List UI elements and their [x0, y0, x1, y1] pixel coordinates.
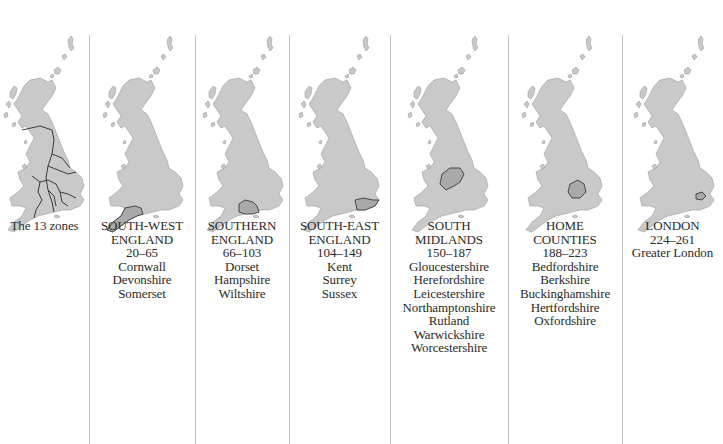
- zone-range: 104–149: [289, 246, 390, 260]
- zone-title-line: SOUTH-WEST: [89, 219, 195, 233]
- uk-map-south-east: [291, 34, 387, 234]
- county-name: Warwickshire: [390, 328, 508, 342]
- zone-title-line: SOUTH: [390, 219, 508, 233]
- panel-home-counties: HOME COUNTIES 188–223 Bedfordshire Berks…: [508, 0, 622, 444]
- county-name: Berkshire: [508, 273, 622, 287]
- caption: SOUTH-EAST ENGLAND 104–149 Kent Surrey S…: [289, 219, 390, 301]
- county-name: Sussex: [289, 287, 390, 301]
- panel-south-west-england: SOUTH-WEST ENGLAND 20–65 Cornwall Devons…: [89, 0, 195, 444]
- caption: SOUTH MIDLANDS 150–187 Gloucestershire H…: [390, 219, 508, 355]
- county-name: Surrey: [289, 273, 390, 287]
- county-name: Northamptonshire: [390, 301, 508, 315]
- zone-title: The 13 zones: [0, 219, 89, 233]
- zone-range: 66–103: [195, 246, 289, 260]
- county-name: Greater London: [622, 246, 723, 260]
- county-name: Devonshire: [89, 273, 195, 287]
- county-name: Worcestershire: [390, 341, 508, 355]
- county-name: Buckinghamshire: [508, 287, 622, 301]
- zone-title-line: ENGLAND: [89, 233, 195, 247]
- caption: The 13 zones: [0, 219, 89, 233]
- county-name: Wiltshire: [195, 287, 289, 301]
- zone-title-line: LONDON: [622, 219, 723, 233]
- zone-title-line: HOME: [508, 219, 622, 233]
- county-name: Hertfordshire: [508, 301, 622, 315]
- uk-map-all-zones: [0, 34, 92, 234]
- zone-range: 150–187: [390, 246, 508, 260]
- zone-range: 188–223: [508, 246, 622, 260]
- county-name: Oxfordshire: [508, 314, 622, 328]
- county-name: Cornwall: [89, 260, 195, 274]
- zone-title-line: COUNTIES: [508, 233, 622, 247]
- uk-map-south-midlands: [400, 34, 496, 234]
- panel-13-zones: The 13 zones: [0, 0, 89, 444]
- county-name: Dorset: [195, 260, 289, 274]
- caption: SOUTHERN ENGLAND 66–103 Dorset Hampshire…: [195, 219, 289, 301]
- caption: HOME COUNTIES 188–223 Bedfordshire Berks…: [508, 219, 622, 328]
- county-name: Bedfordshire: [508, 260, 622, 274]
- county-name: Leicestershire: [390, 287, 508, 301]
- zone-range: 20–65: [89, 246, 195, 260]
- uk-map-home-counties: [514, 34, 610, 234]
- zone-title-line: MIDLANDS: [390, 233, 508, 247]
- panel-south-east-england: SOUTH-EAST ENGLAND 104–149 Kent Surrey S…: [289, 0, 390, 444]
- uk-map-london: [626, 34, 722, 234]
- zone-range: 224–261: [622, 233, 723, 247]
- county-name: Herefordshire: [390, 273, 508, 287]
- county-name: Kent: [289, 260, 390, 274]
- panel-southern-england: SOUTHERN ENGLAND 66–103 Dorset Hampshire…: [195, 0, 289, 444]
- panel-london: LONDON 224–261 Greater London: [622, 0, 723, 444]
- panel-south-midlands: SOUTH MIDLANDS 150–187 Gloucestershire H…: [390, 0, 508, 444]
- caption: SOUTH-WEST ENGLAND 20–65 Cornwall Devons…: [89, 219, 195, 301]
- zone-title-line: SOUTHERN: [195, 219, 289, 233]
- zone-title-line: SOUTH-EAST: [289, 219, 390, 233]
- caption: LONDON 224–261 Greater London: [622, 219, 723, 260]
- uk-map-south-west: [95, 34, 191, 234]
- county-name: Somerset: [89, 287, 195, 301]
- zone-title-line: ENGLAND: [289, 233, 390, 247]
- county-name: Hampshire: [195, 273, 289, 287]
- zone-title-line: ENGLAND: [195, 233, 289, 247]
- county-name: Gloucestershire: [390, 260, 508, 274]
- county-name: Rutland: [390, 314, 508, 328]
- uk-map-southern: [195, 34, 291, 234]
